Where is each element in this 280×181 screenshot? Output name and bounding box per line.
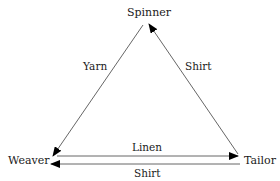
edge-spinner-to-weaver: [53, 25, 143, 156]
edge-label-shirt-right: Shirt: [185, 60, 212, 72]
edge-label-yarn: Yarn: [83, 60, 107, 72]
edge-label-linen: Linen: [132, 141, 162, 153]
node-weaver: Weaver: [8, 155, 49, 167]
edge-tailor-to-spinner: [149, 24, 238, 154]
node-tailor: Tailor: [244, 155, 276, 167]
edge-label-shirt-bottom: Shirt: [134, 167, 161, 179]
node-spinner: Spinner: [127, 7, 171, 19]
